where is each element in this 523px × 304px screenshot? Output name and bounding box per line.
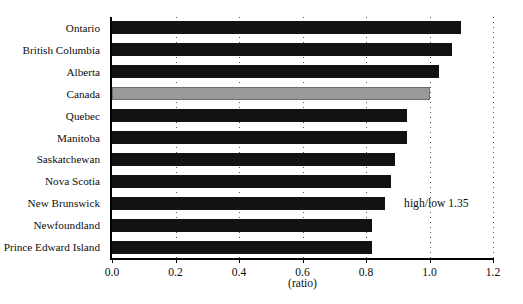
x-tick-0.0 — [112, 258, 113, 263]
x-axis-title-text: (ratio) — [206, 277, 317, 290]
category-label-manitoba: Manitoba — [57, 132, 100, 144]
category-label-british-columbia: British Columbia — [23, 44, 100, 56]
category-label-canada: Canada — [66, 88, 100, 100]
bar-new-brunswick — [112, 197, 385, 210]
bar-nova-scotia — [112, 175, 391, 188]
x-tick-0.4 — [239, 258, 240, 263]
bar-saskatchewan — [112, 153, 395, 166]
category-label-ontario: Ontario — [66, 22, 100, 34]
gridline-1.2 — [493, 17, 494, 258]
x-tick-1.2 — [493, 258, 494, 263]
x-tick-0.8 — [366, 258, 367, 263]
category-label-quebec: Quebec — [66, 110, 100, 122]
category-label-newfoundland: Newfoundland — [34, 219, 101, 231]
category-label-prince-edward-island: Prince Edward Island — [4, 241, 100, 253]
x-tick-0.6 — [303, 258, 304, 263]
chart-annotation-0: high/low 1.35 — [404, 197, 468, 210]
bar-alberta — [112, 65, 439, 78]
x-tick-1.0 — [430, 258, 431, 263]
x-axis-line — [110, 258, 493, 260]
category-label-saskatchewan: Saskatchewan — [37, 153, 100, 165]
plot-area: 0.00.20.40.60.81.01.2 high/low 1.35 — [112, 17, 493, 258]
x-tick-0.2 — [176, 258, 177, 263]
bar-prince-edward-island — [112, 241, 372, 254]
bar-chart: OntarioBritish ColumbiaAlbertaCanadaQueb… — [0, 0, 523, 304]
x-axis-title: (ratio) — [0, 277, 523, 290]
category-label-alberta: Alberta — [66, 66, 100, 78]
category-label-new-brunswick: New Brunswick — [28, 197, 100, 209]
bar-canada — [112, 87, 430, 100]
bar-manitoba — [112, 131, 407, 144]
bar-ontario — [112, 21, 461, 34]
bar-newfoundland — [112, 219, 372, 232]
bar-british-columbia — [112, 43, 452, 56]
bar-quebec — [112, 109, 407, 122]
category-label-nova-scotia: Nova Scotia — [45, 175, 100, 187]
category-axis-labels: OntarioBritish ColumbiaAlbertaCanadaQueb… — [0, 17, 106, 258]
